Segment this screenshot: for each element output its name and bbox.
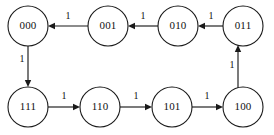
node-label: 101 [163,100,180,112]
arrowhead-icon [145,104,152,110]
node-100[interactable]: 100 [223,87,263,127]
arrowhead-icon [198,23,205,29]
state-transition-diagram: 1 1 1 1 1 1 [0,0,274,135]
node-111[interactable]: 111 [8,87,48,127]
edge-label: 1 [62,90,67,101]
node-000[interactable]: 000 [8,6,48,46]
arrowhead-icon [73,104,80,110]
node-011[interactable]: 011 [223,6,263,46]
edge-010-to-001: 1 [128,10,158,29]
node-label: 111 [20,100,36,112]
edge-100-to-011: 1 [230,45,242,88]
node-010[interactable]: 010 [158,6,198,46]
arrowhead-icon [216,104,223,110]
edge-001-to-000: 1 [48,10,88,29]
edge-011-to-010: 1 [198,10,223,29]
arrowhead-icon [128,23,135,29]
node-label: 000 [19,19,36,31]
node-001[interactable]: 001 [88,6,128,46]
edge-label: 1 [230,59,235,70]
node-label: 011 [235,19,252,31]
edge-111-to-110: 1 [48,90,80,110]
node-label: 100 [234,100,251,112]
node-label: 110 [92,100,109,112]
edge-label: 1 [20,53,25,64]
arrowhead-icon [48,23,55,29]
edge-label: 1 [209,10,214,21]
node-label: 010 [169,19,186,31]
edge-label: 1 [205,90,210,101]
edge-110-to-101: 1 [120,90,152,110]
edge-label: 1 [141,10,146,21]
node-label: 001 [99,19,116,31]
edge-label: 1 [134,90,139,101]
graph-canvas: 1 1 1 1 1 1 [0,0,274,135]
node-110[interactable]: 110 [80,87,120,127]
edge-101-to-100: 1 [192,90,223,110]
edge-label: 1 [66,10,71,21]
node-101[interactable]: 101 [152,87,192,127]
arrowhead-icon [25,80,31,87]
